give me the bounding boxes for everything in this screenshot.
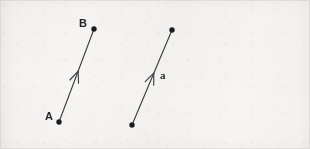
- vector-a-label: a: [160, 70, 166, 81]
- figure-border: [1, 1, 310, 149]
- vector-a-shaft: [132, 30, 172, 125]
- point-b-dot: [91, 26, 96, 31]
- vector-a-tail-dot: [129, 122, 134, 127]
- vector-ab-group: [56, 26, 96, 124]
- vector-a-head-dot: [169, 27, 174, 32]
- point-b-label: B: [79, 18, 87, 29]
- vector-figure: A B a: [0, 0, 310, 149]
- vector-a-group: [129, 27, 174, 127]
- point-a-label: A: [45, 111, 53, 122]
- vector-diagram-canvas: [0, 0, 310, 149]
- point-a-dot: [56, 119, 61, 124]
- vector-ab-shaft: [59, 29, 94, 122]
